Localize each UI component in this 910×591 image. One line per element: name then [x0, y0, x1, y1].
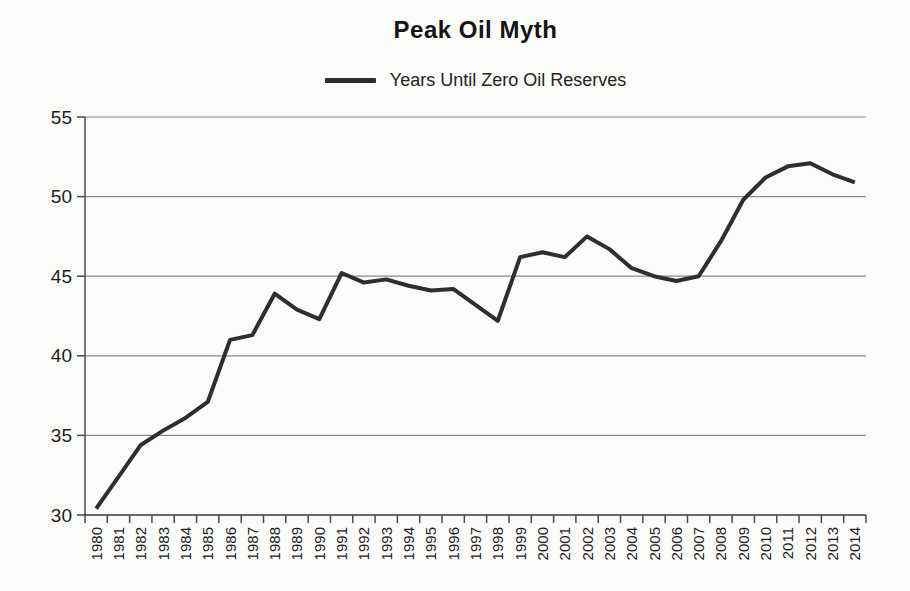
x-tick-label: 1994	[400, 527, 417, 560]
x-tick-label: 2001	[556, 527, 573, 560]
x-tick-label: 1980	[88, 527, 105, 560]
x-tick-label: 1988	[266, 527, 283, 560]
x-tick-label: 1999	[512, 527, 529, 560]
x-tick-label: 1997	[467, 527, 484, 560]
x-tick-label: 1986	[222, 527, 239, 560]
x-tick-label: 1995	[422, 527, 439, 560]
x-tick-label: 1993	[378, 527, 395, 560]
y-tick-label: 30	[51, 505, 72, 526]
x-tick-label: 2014	[846, 527, 863, 560]
y-tick-label: 55	[51, 107, 72, 128]
x-tick-label: 1998	[489, 527, 506, 560]
x-tick-label: 2012	[802, 527, 819, 560]
y-tick-label: 35	[51, 425, 72, 446]
x-tick-label: 2004	[623, 527, 640, 560]
x-tick-label: 1989	[288, 527, 305, 560]
x-tick-label: 1996	[445, 527, 462, 560]
x-tick-label: 1984	[177, 527, 194, 560]
x-tick-label: 2013	[824, 527, 841, 560]
x-tick-label: 1990	[311, 527, 328, 560]
x-tick-label: 1985	[199, 527, 216, 560]
scanned-chart-page: Peak Oil Myth Years Until Zero Oil Reser…	[0, 0, 910, 591]
x-tick-label: 2007	[690, 527, 707, 560]
series-line	[96, 163, 855, 508]
x-tick-label: 2003	[601, 527, 618, 560]
x-tick-label: 1987	[244, 527, 261, 560]
x-tick-label: 2002	[579, 527, 596, 560]
x-tick-label: 2005	[646, 527, 663, 560]
x-tick-label: 2009	[735, 527, 752, 560]
y-tick-label: 40	[51, 345, 72, 366]
x-tick-label: 1981	[110, 527, 127, 560]
y-tick-label: 50	[51, 186, 72, 207]
x-tick-label: 2011	[779, 527, 796, 559]
x-tick-label: 1982	[132, 527, 149, 560]
y-tick-label: 45	[51, 266, 72, 287]
x-tick-label: 2000	[534, 527, 551, 560]
line-chart-plot: 3035404550551980198119821983198419851986…	[0, 0, 910, 591]
x-tick-label: 2010	[757, 527, 774, 560]
x-tick-label: 2006	[668, 527, 685, 560]
x-tick-label: 1992	[355, 527, 372, 560]
x-tick-label: 2008	[712, 527, 729, 560]
x-tick-label: 1983	[155, 527, 172, 560]
x-tick-label: 1991	[333, 527, 350, 560]
